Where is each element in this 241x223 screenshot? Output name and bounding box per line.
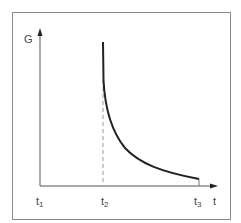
y-axis-label: G [24,34,33,45]
decay-curve [103,42,199,179]
tick-t3-sub: 3 [197,200,201,209]
tick-t2-sub: 2 [104,200,108,209]
x-axis-arrow-icon [210,184,218,189]
tick-t2: t2 [101,196,109,209]
tick-t1: t1 [36,196,44,209]
diagram-canvas [0,0,241,223]
x-axis-label: t [213,196,216,207]
tick-t3: t3 [194,196,202,209]
y-axis-arrow-icon [38,28,43,36]
tick-t1-sub: 1 [39,200,43,209]
frame [13,13,231,220]
